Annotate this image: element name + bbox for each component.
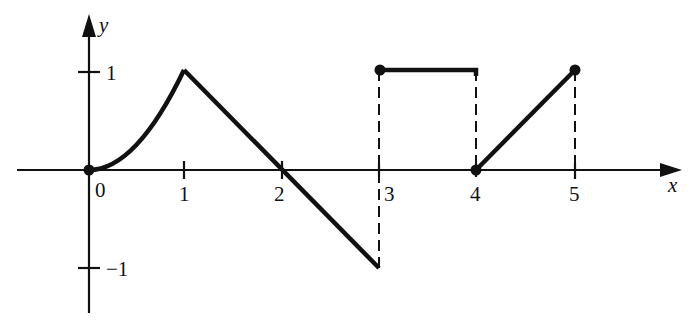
segment-line-up — [476, 70, 575, 170]
x-tick-label-2: 2 — [274, 182, 285, 206]
y-tick-label-1: 1 — [106, 61, 117, 85]
x-axis-label: x — [667, 173, 678, 197]
point-3-1 — [375, 65, 386, 76]
x-tick-label-3: 3 — [384, 182, 395, 206]
x-tick-label-0: 0 — [95, 178, 106, 202]
labels: y x 0 1 2 3 4 5 1 −1 — [95, 13, 678, 281]
function-graph: y x 0 1 2 3 4 5 1 −1 — [0, 0, 693, 323]
x-tick-label-1: 1 — [179, 182, 190, 206]
x-tick-label-5: 5 — [569, 182, 580, 206]
point-0-0 — [84, 165, 95, 176]
x-tick-label-4: 4 — [470, 182, 481, 206]
point-5-1 — [570, 65, 581, 76]
y-tick-label-neg1: −1 — [106, 257, 128, 281]
segment-step-top — [380, 70, 476, 76]
point-4-0 — [471, 165, 482, 176]
segment-curve — [89, 70, 184, 170]
y-axis-arrow-icon — [82, 14, 96, 37]
y-axis-label: y — [97, 13, 109, 37]
